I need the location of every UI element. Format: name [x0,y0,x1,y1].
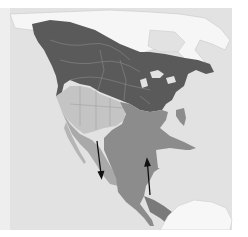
left-margin [0,8,10,230]
map-canvas [0,0,248,237]
range-map [0,0,248,237]
bottom-margin [0,230,248,237]
